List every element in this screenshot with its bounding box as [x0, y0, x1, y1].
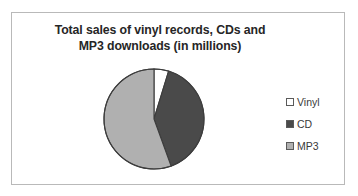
legend-swatch-vinyl: [286, 98, 294, 106]
chart-legend: Vinyl CD MP3: [286, 91, 344, 157]
legend-label-cd: CD: [297, 119, 312, 130]
legend-item-mp3[interactable]: MP3: [286, 135, 344, 157]
legend-item-vinyl[interactable]: Vinyl: [286, 91, 344, 113]
plot-area: Vinyl CD MP3: [12, 13, 346, 186]
pie-chart: [98, 63, 210, 175]
chart-card: Total sales of vinyl records, CDs and MP…: [11, 12, 345, 185]
legend-swatch-mp3: [286, 142, 294, 150]
legend-label-mp3: MP3: [297, 141, 319, 152]
legend-swatch-cd: [286, 120, 294, 128]
legend-label-vinyl: Vinyl: [297, 97, 320, 108]
legend-item-cd[interactable]: CD: [286, 113, 344, 135]
